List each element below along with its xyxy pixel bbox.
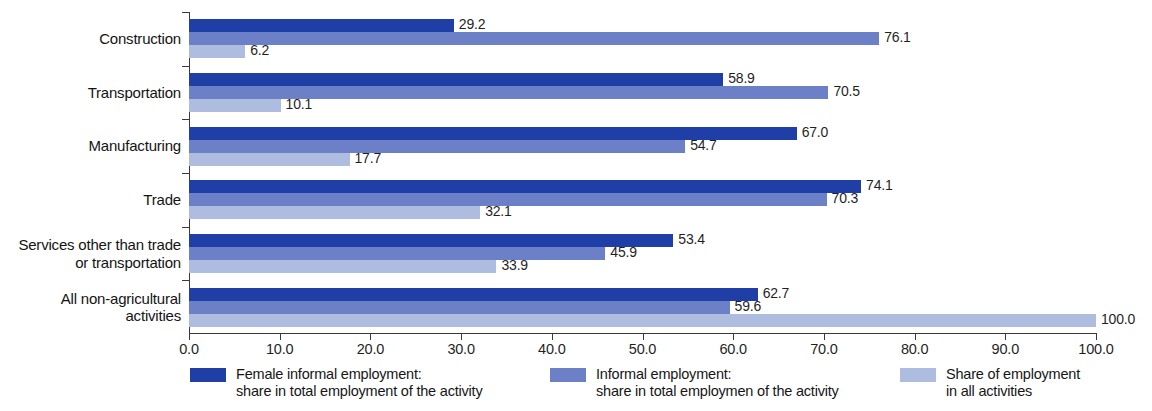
- x-tick: [189, 334, 190, 340]
- bar-value-label: 62.7: [763, 287, 789, 300]
- bar-value-label: 70.3: [832, 192, 858, 205]
- top-edge-artifact: [18, 0, 21, 7]
- legend-swatch-0: [190, 368, 226, 382]
- category-label-0: Construction: [0, 30, 181, 48]
- x-tick-label-7: 70.0: [810, 341, 837, 357]
- x-tick: [552, 334, 553, 340]
- legend-item-0[interactable]: Female informal employment: share in tot…: [190, 366, 482, 400]
- plot-area: 29.276.16.258.970.510.167.054.717.774.17…: [189, 12, 1096, 334]
- x-tick-label-8: 80.0: [901, 341, 928, 357]
- x-tick: [824, 334, 825, 340]
- x-tick: [733, 334, 734, 340]
- bar-0-1: [189, 73, 723, 86]
- bar-value-label: 67.0: [802, 126, 828, 139]
- x-tick: [370, 334, 371, 340]
- x-tick-label-9: 90.0: [992, 341, 1019, 357]
- y-tick: [182, 227, 189, 228]
- bar-value-label: 53.4: [678, 233, 704, 246]
- y-tick: [182, 173, 189, 174]
- category-label-1: Transportation: [0, 84, 181, 102]
- chart-legend: Female informal employment: share in tot…: [0, 364, 1152, 411]
- bar-value-label: 29.2: [459, 18, 485, 31]
- x-tick-label-10: 100.0: [1078, 341, 1113, 357]
- x-tick-label-5: 50.0: [629, 341, 656, 357]
- bar-value-label: 10.1: [286, 98, 312, 111]
- category-label-5: All non-agricultural activities: [0, 290, 181, 325]
- bar-value-label: 54.7: [690, 139, 716, 152]
- bar-0-4: [189, 234, 673, 247]
- category-label-2: Manufacturing: [0, 137, 181, 155]
- horizontal-bar-chart: ConstructionTransportationManufacturingT…: [0, 0, 1152, 411]
- bar-value-label: 59.6: [735, 300, 761, 313]
- y-tick: [182, 12, 189, 13]
- bar-value-label: 45.9: [610, 246, 636, 259]
- bar-2-5: [189, 314, 1096, 327]
- bar-2-2: [189, 153, 350, 166]
- x-tick: [280, 334, 281, 340]
- x-tick-label-0: 0.0: [179, 341, 199, 357]
- bar-2-3: [189, 206, 480, 219]
- bar-value-label: 32.1: [485, 205, 511, 218]
- bar-1-4: [189, 247, 605, 260]
- y-tick: [182, 119, 189, 120]
- legend-item-1[interactable]: Informal employment: share in total empl…: [550, 366, 839, 400]
- bar-value-label: 6.2: [250, 44, 269, 57]
- bar-0-3: [189, 180, 861, 193]
- bar-value-label: 74.1: [866, 179, 892, 192]
- x-tick-label-2: 20.0: [357, 341, 384, 357]
- bar-0-0: [189, 19, 454, 32]
- legend-swatch-1: [550, 368, 586, 382]
- y-tick: [182, 280, 189, 281]
- legend-swatch-2: [900, 368, 936, 382]
- bar-2-4: [189, 260, 496, 273]
- x-tick: [461, 334, 462, 340]
- x-tick-label-1: 10.0: [266, 341, 293, 357]
- bar-value-label: 33.9: [501, 259, 527, 272]
- x-tick: [1096, 334, 1097, 340]
- y-tick: [182, 66, 189, 67]
- legend-label-2: Share of employment in all activities: [946, 366, 1080, 400]
- bar-value-label: 17.7: [355, 152, 381, 165]
- category-label-3: Trade: [0, 191, 181, 209]
- bar-1-2: [189, 140, 685, 153]
- bar-value-label: 76.1: [884, 31, 910, 44]
- bar-2-1: [189, 99, 281, 112]
- bar-value-label: 70.5: [833, 85, 859, 98]
- bar-2-0: [189, 45, 245, 58]
- legend-label-1: Informal employment: share in total empl…: [596, 366, 839, 400]
- bar-0-5: [189, 288, 758, 301]
- x-tick: [1005, 334, 1006, 340]
- legend-item-2[interactable]: Share of employment in all activities: [900, 366, 1080, 400]
- bar-value-label: 100.0: [1101, 313, 1135, 326]
- bar-1-0: [189, 32, 879, 45]
- x-tick-label-3: 30.0: [447, 341, 474, 357]
- x-tick: [643, 334, 644, 340]
- legend-label-0: Female informal employment: share in tot…: [236, 366, 482, 400]
- x-tick: [915, 334, 916, 340]
- bar-value-label: 58.9: [728, 72, 754, 85]
- x-tick-label-6: 60.0: [719, 341, 746, 357]
- x-tick-label-4: 40.0: [538, 341, 565, 357]
- bar-1-5: [189, 301, 730, 314]
- category-label-4: Services other than trade or transportat…: [0, 236, 181, 271]
